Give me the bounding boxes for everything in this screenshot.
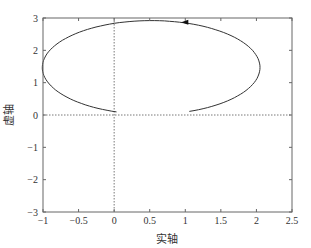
reference-lines [43,18,292,212]
y-tick-label: 3 [33,13,38,24]
x-tick-label: 2.5 [286,215,299,226]
x-axis-title: 实轴 [156,232,178,246]
x-tick-label: 1 [183,215,188,226]
x-tick-label: −0.5 [70,215,88,226]
y-tick-label: −1 [27,142,38,153]
y-tick-label: −2 [27,174,38,185]
x-tick-label: 0 [112,215,117,226]
x-tick-label: 0.5 [143,215,156,226]
x-tick-label: 2 [254,215,259,226]
x-axis-ticks: −1−0.500.511.522.5 [38,18,299,226]
x-tick-label: 1.5 [215,215,228,226]
y-tick-label: 1 [33,77,38,88]
y-axis-title: 虚轴 [2,104,16,126]
nyquist-chart: −1−0.500.511.522.5 −3−2−10123 实轴 虚轴 [0,0,311,248]
locus-curve [42,21,260,112]
y-tick-label: −3 [27,207,38,218]
x-tick-label: −1 [38,215,49,226]
y-tick-label: 2 [33,45,38,56]
y-tick-label: 0 [33,110,38,121]
